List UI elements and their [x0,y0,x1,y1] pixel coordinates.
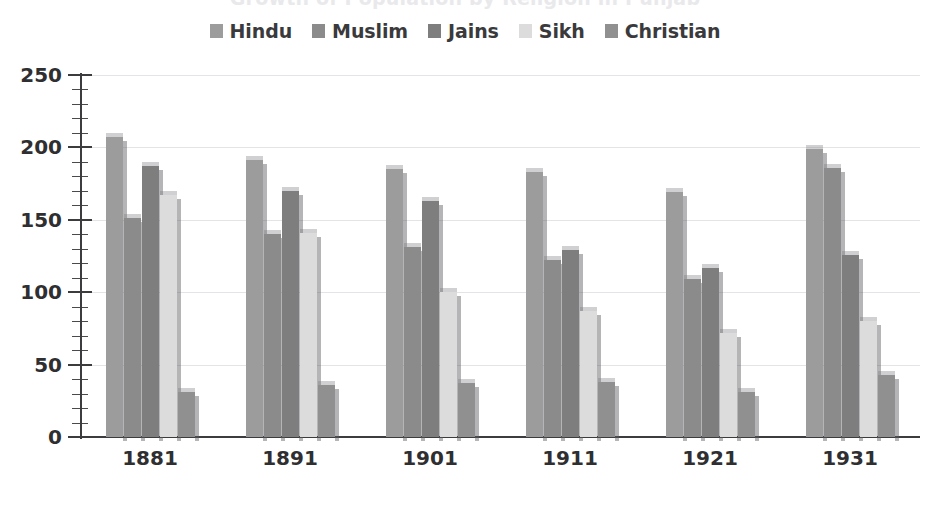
bar-sikh-1891[interactable] [300,75,317,437]
bar-jains-1901[interactable] [422,75,439,437]
bar-group-1901 [386,75,475,437]
bar-muslim-1901[interactable] [404,75,421,437]
legend-item-hindu[interactable]: Hindu [210,22,293,41]
bar-rect [738,392,755,437]
bar-rect [684,279,701,437]
bar-top-cap [842,251,859,255]
bar-rect [580,311,597,437]
plot-area [80,75,920,437]
x-tick-label-1891: 1891 [220,448,360,468]
bar-hindu-1901[interactable] [386,75,403,437]
bar-sikh-1921[interactable] [720,75,737,437]
x-tick-label-1881: 1881 [80,448,220,468]
bar-rect [598,382,615,437]
bar-top-cap [142,162,159,166]
bar-top-cap [422,197,439,201]
bar-rect [860,321,877,437]
bar-rect [720,333,737,437]
bar-hindu-1921[interactable] [666,75,683,437]
bar-christian-1931[interactable] [878,75,895,437]
legend-item-christian[interactable]: Christian [605,22,721,41]
bar-rect [160,195,177,437]
x-tick-label-1901: 1901 [360,448,500,468]
bar-muslim-1931[interactable] [824,75,841,437]
bar-sikh-1881[interactable] [160,75,177,437]
bar-top-cap [178,388,195,392]
bar-rect [318,385,335,437]
bar-top-cap [720,329,737,333]
legend-item-label: Christian [625,22,721,41]
bar-rect [124,218,141,437]
chart-title-strip: Growth of Population by Religion in Punj… [0,0,930,14]
bar-jains-1881[interactable] [142,75,159,437]
bar-rect [404,247,421,437]
y-tick-label: 50 [4,355,62,375]
x-tick-label-1921: 1921 [640,448,780,468]
bar-top-cap [386,165,403,169]
bar-muslim-1891[interactable] [264,75,281,437]
bar-rect [666,192,683,437]
bar-top-cap [160,191,177,195]
bar-christian-1921[interactable] [738,75,755,437]
bar-jains-1931[interactable] [842,75,859,437]
bar-jains-1921[interactable] [702,75,719,437]
bar-muslim-1911[interactable] [544,75,561,437]
bar-top-cap [282,187,299,191]
bar-top-cap [562,246,579,250]
bar-top-cap [300,229,317,233]
bar-rect [440,292,457,437]
bar-rect [106,137,123,437]
bar-christian-1911[interactable] [598,75,615,437]
bar-top-cap [544,256,561,260]
bar-top-cap [702,264,719,268]
bar-top-cap [318,381,335,385]
bar-side-shade [615,386,619,441]
bar-jains-1891[interactable] [282,75,299,437]
legend-swatch-icon [428,24,441,38]
bar-top-cap [878,371,895,375]
y-tick-label: 100 [4,282,62,302]
bar-top-cap [580,307,597,311]
legend-swatch-icon [312,24,325,38]
y-tick-label: 250 [4,65,62,85]
bar-hindu-1911[interactable] [526,75,543,437]
bar-rect [246,160,263,437]
legend-item-label: Jains [448,22,499,41]
bar-christian-1881[interactable] [178,75,195,437]
legend-item-label: Muslim [332,22,408,41]
bar-sikh-1901[interactable] [440,75,457,437]
bar-rect [878,375,895,437]
bar-hindu-1931[interactable] [806,75,823,437]
bar-top-cap [738,388,755,392]
bar-top-cap [264,230,281,234]
bar-side-shade [895,379,899,441]
page-title: Growth of Population by Religion in Punj… [0,0,930,9]
bar-group-1911 [526,75,615,437]
bar-sikh-1931[interactable] [860,75,877,437]
bar-christian-1891[interactable] [318,75,335,437]
bar-side-shade [335,389,339,441]
bar-hindu-1891[interactable] [246,75,263,437]
bar-top-cap [246,156,263,160]
bar-sikh-1911[interactable] [580,75,597,437]
bar-side-shade [475,387,479,441]
bar-rect [806,149,823,437]
legend-item-label: Sikh [539,22,585,41]
legend-item-jains[interactable]: Jains [428,22,499,41]
legend-item-sikh[interactable]: Sikh [519,22,585,41]
bar-top-cap [824,164,841,168]
bar-hindu-1881[interactable] [106,75,123,437]
bar-muslim-1881[interactable] [124,75,141,437]
bar-christian-1901[interactable] [458,75,475,437]
bar-jains-1911[interactable] [562,75,579,437]
bar-top-cap [440,288,457,292]
bar-top-cap [598,378,615,382]
bar-top-cap [124,214,141,218]
bar-muslim-1921[interactable] [684,75,701,437]
bar-top-cap [806,145,823,149]
bar-side-shade [195,396,199,441]
legend-swatch-icon [605,24,618,38]
legend-item-muslim[interactable]: Muslim [312,22,408,41]
x-tick-label-1911: 1911 [500,448,640,468]
bar-rect [142,166,159,437]
